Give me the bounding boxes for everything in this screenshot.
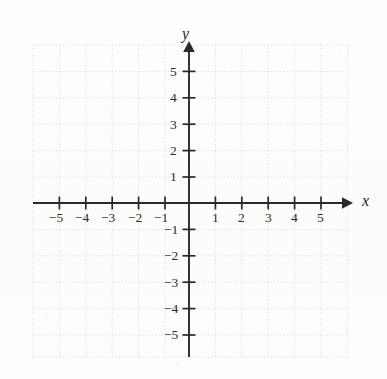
grid-vertical-lines: [33, 45, 347, 357]
y-axis-arrow-icon: [183, 41, 195, 52]
y-tick-label-pos3: 3: [170, 118, 177, 132]
y-tick-label-pos4: 4: [170, 91, 177, 105]
y-tick-label-pos5: 5: [170, 65, 177, 79]
coordinate-grid-canvas: [0, 0, 387, 379]
x-tick-label-neg2: −2: [128, 211, 142, 225]
y-tick-label-neg5: −5: [164, 328, 178, 342]
y-tick-label-neg2: −2: [164, 249, 178, 263]
y-axis-label: y: [182, 26, 189, 42]
y-tick-label-neg3: −3: [164, 276, 178, 290]
x-tick-label-pos2: 2: [238, 211, 245, 225]
coordinate-plane-figure: y x −5 −4 −3 −2 −1 1 2 3 4 5 5 4 3 2 1 −…: [0, 0, 387, 379]
x-tick-label-neg3: −3: [101, 211, 115, 225]
grid-horizontal-lines: [33, 45, 350, 357]
x-tick-label-neg4: −4: [75, 211, 89, 225]
y-tick-label-pos2: 2: [170, 144, 177, 158]
y-tick-label-neg1: −1: [164, 223, 178, 237]
x-tick-label-pos1: 1: [212, 211, 219, 225]
x-tick-label-pos4: 4: [291, 211, 298, 225]
y-tick-label-neg4: −4: [164, 302, 178, 316]
x-tick-label-neg5: −5: [49, 211, 63, 225]
y-tick-label-pos1: 1: [170, 170, 177, 184]
x-tick-label-pos5: 5: [317, 211, 324, 225]
x-tick-label-pos3: 3: [265, 211, 272, 225]
x-axis-label: x: [362, 193, 369, 209]
